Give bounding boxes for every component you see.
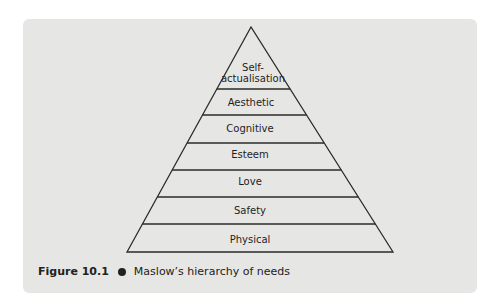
pyramid-outline: [127, 27, 393, 252]
level-cognitive: Cognitive: [190, 123, 310, 134]
bullet-icon: [118, 268, 126, 276]
caption-text: Maslow’s hierarchy of needs: [134, 265, 290, 278]
level-label-line1: Self-: [193, 62, 313, 73]
level-label-line2: actualisation: [193, 73, 313, 84]
level-self-actualisation: Self- actualisation: [193, 62, 313, 84]
level-esteem: Esteem: [190, 149, 310, 160]
figure-number: Figure 10.1: [38, 265, 109, 278]
level-aesthetic: Aesthetic: [191, 97, 311, 108]
figure-caption: Figure 10.1 Maslow’s hierarchy of needs: [38, 265, 290, 278]
level-physical: Physical: [190, 234, 310, 245]
level-love: Love: [190, 176, 310, 187]
level-safety: Safety: [190, 205, 310, 216]
